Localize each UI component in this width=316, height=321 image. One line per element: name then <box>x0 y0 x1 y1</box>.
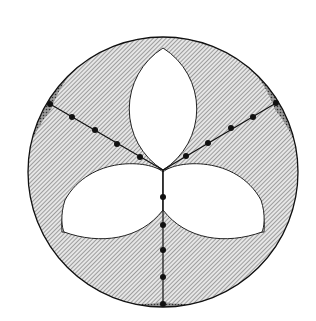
geometric-diagram <box>0 0 316 321</box>
